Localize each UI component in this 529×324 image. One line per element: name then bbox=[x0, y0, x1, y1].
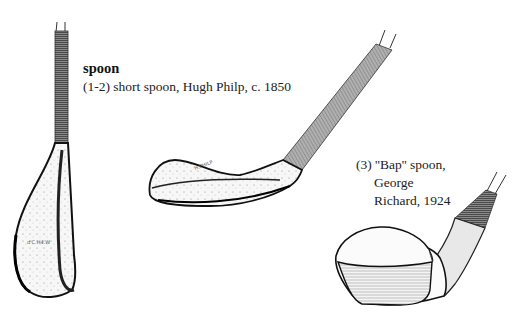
caption-clubs-1-2: (1-2) short spoon, Hugh Philp, c. 1850 bbox=[83, 78, 291, 96]
svg-text:d'C.H4.W: d'C.H4.W bbox=[27, 239, 50, 245]
caption-club-3-line2: George bbox=[356, 174, 451, 192]
caption-club-3-line1: (3) ''Bap'' spoon, bbox=[356, 156, 451, 174]
caption-club-3-line3: Richard, 1924 bbox=[356, 192, 451, 210]
section-heading: spoon bbox=[83, 60, 119, 77]
caption-club-3: (3) ''Bap'' spoon, George Richard, 1924 bbox=[356, 156, 451, 210]
club-1-short-spoon-front: d'C.H4.W bbox=[15, 22, 76, 297]
